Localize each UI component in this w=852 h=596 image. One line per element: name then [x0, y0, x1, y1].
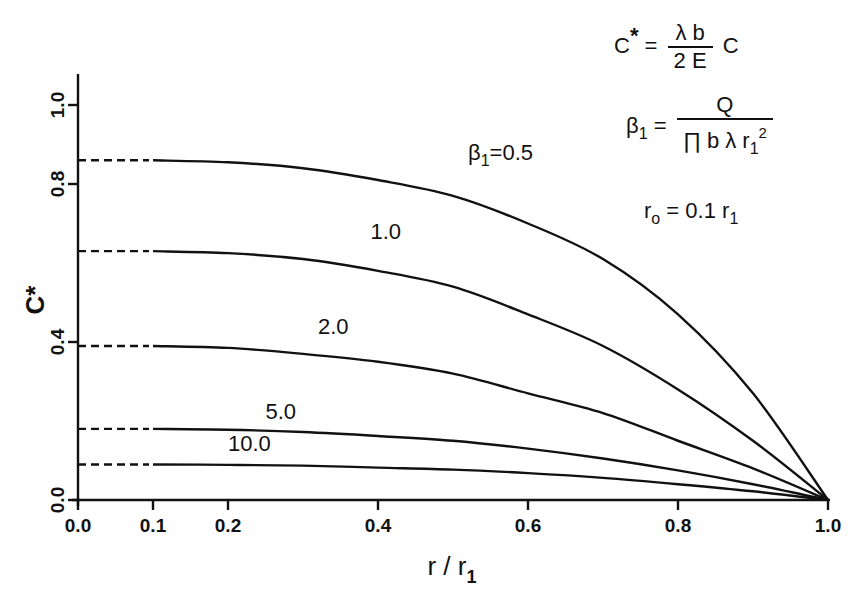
concentration-profile-chart: β1=0.51.02.05.010.0 0.00.10.20.40.60.81.…	[0, 0, 852, 596]
formula-c-star-equals: =	[645, 33, 658, 58]
formula-beta-fraction: Q ∏ b λ r12	[677, 92, 773, 162]
y-tick-label: 0.4	[47, 328, 68, 355]
curve-110-0	[153, 464, 828, 500]
formula-r0-subscript: o	[651, 210, 660, 227]
curve-label: 2.0	[318, 314, 349, 339]
formula-r0-rhs: 0.1 r	[685, 198, 729, 223]
x-tick-label: 0.1	[140, 515, 167, 536]
formula-c-star-numerator: λ b	[668, 20, 713, 48]
formula-c-star-rhs: C	[723, 33, 739, 58]
formula-beta: β1 = Q ∏ b λ r12	[626, 92, 777, 162]
x-tick-label: 0.2	[215, 515, 241, 536]
x-tick-label: 0.6	[515, 515, 541, 536]
curve-label: β1=0.5	[468, 140, 533, 169]
formula-c-star-denominator: 2 E	[668, 48, 713, 74]
x-tick-label: 0.4	[365, 515, 392, 536]
formula-beta-den-main: ∏ b λ r	[683, 128, 750, 153]
formula-c-star-fraction: λ b 2 E	[668, 20, 713, 74]
formula-c-star: C* = λ b 2 E C	[614, 20, 739, 74]
y-tick-label: 1.0	[47, 92, 68, 118]
formula-r0-rhs-subscript: 1	[729, 210, 738, 227]
curve-label: 10.0	[228, 431, 271, 456]
formula-beta-equals: =	[654, 113, 667, 138]
formula-beta-subscript: 1	[639, 125, 648, 142]
x-tick-label: 0.0	[65, 515, 91, 536]
curve-label: 1.0	[371, 219, 402, 244]
y-axis-title: C*	[20, 285, 50, 315]
curve-11-0	[153, 251, 828, 500]
formula-r0: ro = 0.1 r1	[644, 198, 738, 228]
formula-r0-equals: =	[666, 198, 679, 223]
x-tick-label: 1.0	[815, 515, 841, 536]
y-tick-label: 0.0	[47, 487, 68, 513]
curve-label: 5.0	[266, 399, 297, 424]
formula-c-star-lhs: C	[614, 33, 630, 58]
formula-c-star-asterisk: *	[630, 23, 639, 48]
formula-beta-numerator: Q	[677, 92, 773, 120]
x-tick-label: 0.8	[665, 515, 691, 536]
formula-beta-lhs: β	[626, 113, 639, 138]
x-axis-title: r / r1	[427, 551, 476, 587]
y-tick-label: 0.8	[47, 171, 68, 197]
formula-beta-denominator: ∏ b λ r12	[677, 120, 773, 162]
formula-beta-den-sup: 2	[759, 124, 767, 141]
formula-beta-den-sub: 1	[750, 140, 759, 157]
